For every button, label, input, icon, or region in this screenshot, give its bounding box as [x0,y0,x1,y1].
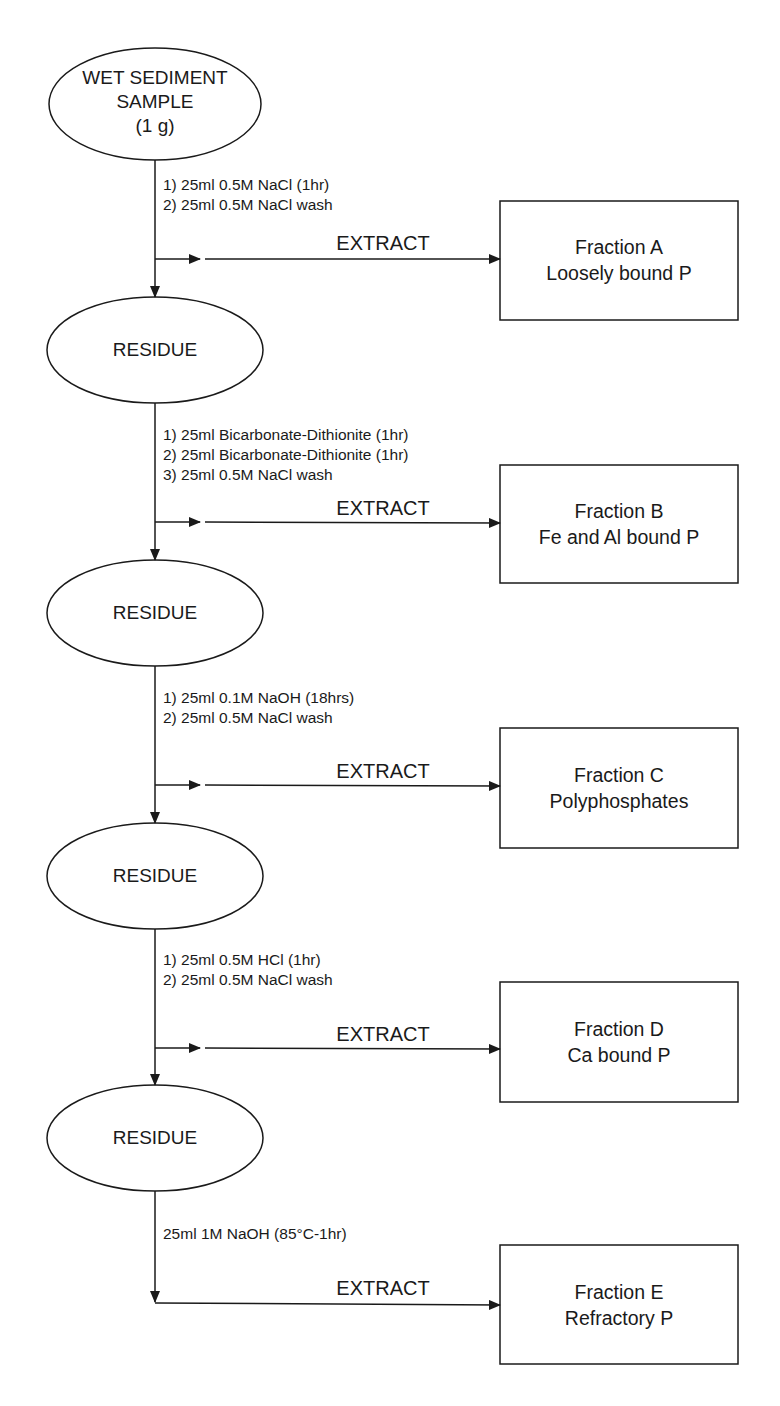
step-4-reagents: 1) 25ml 0.5M HCl (1hr) 2) 25ml 0.5M NaCl… [163,950,333,990]
phosphorus-fractionation-flowchart: WET SEDIMENT SAMPLE (1 g) RESIDUE RESIDU… [0,0,780,1406]
extract-label-b: EXTRACT [336,497,429,520]
fraction-name: Fraction C [550,762,689,788]
flowchart-graphics [0,0,780,1406]
fraction-a-label: Fraction A Loosely bound P [546,234,691,286]
extract-arrow-b-long [205,522,500,523]
extract-arrow-e [155,1303,500,1305]
reagent-line: 2) 25ml 0.5M NaCl wash [163,708,354,728]
fraction-e-label: Fraction E Refractory P [565,1279,673,1331]
fraction-name: Fraction A [546,234,691,260]
reagent-line: 25ml 1M NaOH (85°C-1hr) [163,1224,347,1244]
reagent-line: 2) 25ml Bicarbonate-Dithionite (1hr) [163,445,409,465]
start-node-label: WET SEDIMENT SAMPLE (1 g) [82,66,227,138]
extract-arrow-c-long [205,785,500,786]
step-2-reagents: 1) 25ml Bicarbonate-Dithionite (1hr) 2) … [163,425,409,485]
residue-label-2: RESIDUE [113,601,197,625]
fraction-description: Loosely bound P [546,260,691,286]
residue-label-3: RESIDUE [113,864,197,888]
fraction-description: Fe and Al bound P [539,524,699,550]
extract-label-a: EXTRACT [336,232,429,255]
extract-label-c: EXTRACT [336,760,429,783]
fraction-name: Fraction E [565,1279,673,1305]
step-1-reagents: 1) 25ml 0.5M NaCl (1hr) 2) 25ml 0.5M NaC… [163,175,333,215]
extract-label-e: EXTRACT [336,1277,429,1300]
reagent-line: 1) 25ml 0.5M HCl (1hr) [163,950,333,970]
reagent-line: 1) 25ml 0.1M NaOH (18hrs) [163,688,354,708]
fraction-c-label: Fraction C Polyphosphates [550,762,689,814]
step-3-reagents: 1) 25ml 0.1M NaOH (18hrs) 2) 25ml 0.5M N… [163,688,354,728]
reagent-line: 1) 25ml 0.5M NaCl (1hr) [163,175,333,195]
fraction-name: Fraction B [539,498,699,524]
fraction-description: Refractory P [565,1305,673,1331]
fraction-d-label: Fraction D Ca bound P [568,1016,671,1068]
start-node-line-2: SAMPLE [82,90,227,114]
fraction-description: Polyphosphates [550,788,689,814]
extract-label-d: EXTRACT [336,1023,429,1046]
fraction-name: Fraction D [568,1016,671,1042]
fraction-description: Ca bound P [568,1042,671,1068]
start-node-line-3: (1 g) [82,114,227,138]
start-node-line-1: WET SEDIMENT [82,66,227,90]
reagent-line: 1) 25ml Bicarbonate-Dithionite (1hr) [163,425,409,445]
step-5-reagents: 25ml 1M NaOH (85°C-1hr) [163,1224,347,1244]
extract-arrow-d-long [205,1048,500,1049]
reagent-line: 2) 25ml 0.5M NaCl wash [163,970,333,990]
reagent-line: 3) 25ml 0.5M NaCl wash [163,465,409,485]
residue-label-4: RESIDUE [113,1126,197,1150]
residue-label-1: RESIDUE [113,338,197,362]
fraction-b-label: Fraction B Fe and Al bound P [539,498,699,550]
reagent-line: 2) 25ml 0.5M NaCl wash [163,195,333,215]
